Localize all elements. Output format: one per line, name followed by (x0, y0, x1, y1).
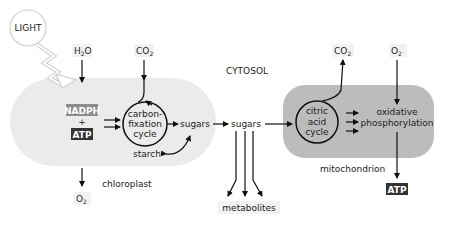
cytosol-label: CYTOSOL (226, 66, 268, 76)
plus-label: + (78, 117, 86, 127)
chloroplast-sugars-label: sugars (180, 119, 210, 129)
oxphos-label-2: phosphorylation (361, 118, 434, 128)
cytosol-sugars-label: sugars (231, 119, 261, 129)
svg-text:citric: citric (306, 106, 328, 116)
light-label: LIGHT (15, 23, 42, 33)
atp-out-label: ATP (387, 185, 406, 195)
atp-label: ATP (72, 130, 91, 140)
metabolites-label: metabolites (222, 203, 276, 213)
starch-label: starch (133, 149, 161, 159)
oxphos-label-1: oxidative (376, 107, 418, 117)
nadph-label: NADPH (64, 106, 100, 116)
svg-text:carbon-: carbon- (128, 109, 162, 119)
svg-text:cycle: cycle (133, 129, 157, 139)
chloroplast-label: chloroplast (102, 179, 152, 189)
svg-text:acid: acid (308, 117, 327, 127)
svg-text:cycle: cycle (305, 127, 329, 137)
svg-text:fixation: fixation (128, 119, 162, 129)
mitochondrion-label: mitochondrion (320, 164, 385, 174)
metabolism-diagram: LIGHT H2O NADPH + ATP CO2 carbon- fixati… (0, 0, 458, 231)
